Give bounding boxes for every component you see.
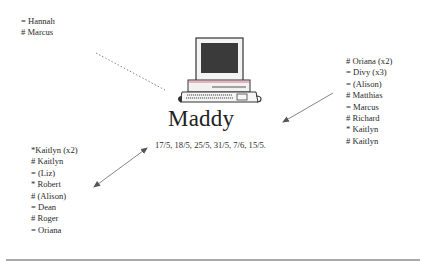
list-item: * Kaitlyn	[346, 124, 392, 135]
double-arrow	[94, 148, 147, 187]
list-item: # Matthias	[346, 90, 392, 101]
list-item: * Robert	[31, 179, 78, 190]
right-arrow	[283, 93, 333, 122]
list-item: # (Alison)	[31, 191, 78, 202]
list-item: # Richard	[346, 113, 392, 124]
list-item: # Roger	[31, 213, 78, 224]
center-title: Maddy	[168, 106, 234, 132]
list-item: # Oriana (x2)	[346, 56, 392, 67]
list-item: # Marcus	[21, 27, 55, 38]
list-item: = (Liz)	[31, 168, 78, 179]
center-dates: 17/5, 18/5, 25/5, 31/5, 7/6, 15/5.	[155, 140, 266, 150]
list-item: = Marcus	[346, 102, 392, 113]
list-item: = Dean	[31, 202, 78, 213]
list-item: # Kaitlyn	[346, 136, 392, 147]
dotted-connector	[96, 53, 165, 90]
list-item: # Kaitlyn	[31, 156, 78, 167]
list-item: = (Alison)	[346, 79, 392, 90]
list-item: = Oriana	[31, 225, 78, 236]
list-item: = Hannah	[21, 16, 55, 27]
right-list: # Oriana (x2) = Divy (x3) = (Alison) # M…	[346, 56, 392, 147]
top-left-list: = Hannah # Marcus	[21, 16, 55, 38]
computer-icon	[178, 38, 261, 102]
bottom-left-list: *Kaitlyn (x2) # Kaitlyn = (Liz) * Robert…	[31, 145, 78, 236]
list-item: = Divy (x3)	[346, 67, 392, 78]
list-item: *Kaitlyn (x2)	[31, 145, 78, 156]
